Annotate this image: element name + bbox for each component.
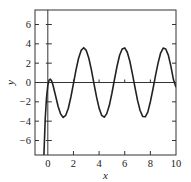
- y-axis-label: y: [4, 80, 16, 86]
- x-tick-label: 2: [71, 158, 76, 169]
- x-tick-label: 8: [148, 158, 153, 169]
- y-tick-label: −6: [20, 135, 31, 146]
- y-tick-label: 0: [26, 77, 31, 88]
- y-axis-tick-labels: −6−4−20246: [20, 19, 32, 146]
- x-axis-tick-labels: 0246810: [45, 158, 181, 169]
- axis-ticks: [35, 25, 176, 156]
- x-tick-label: 10: [171, 158, 182, 169]
- chart: −6−4−20246 0246810 x y: [0, 0, 191, 182]
- data-series-line: [43, 48, 176, 179]
- x-axis-label: x: [102, 169, 108, 181]
- y-tick-label: 2: [26, 58, 31, 69]
- y-tick-label: −2: [20, 96, 31, 107]
- y-tick-label: 4: [26, 38, 32, 49]
- x-tick-label: 0: [45, 158, 50, 169]
- x-tick-label: 6: [122, 158, 127, 169]
- x-tick-label: 4: [96, 158, 102, 169]
- y-tick-label: 6: [26, 19, 31, 30]
- y-tick-label: −4: [20, 116, 32, 127]
